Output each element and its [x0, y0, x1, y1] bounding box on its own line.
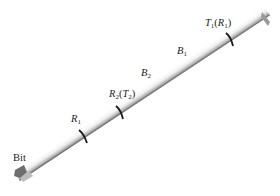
label-t1-r1: T1(R1): [205, 18, 231, 30]
paren-close: ): [132, 88, 136, 99]
label-b2-sub: 2: [147, 72, 151, 80]
drill-pipe: [15, 7, 270, 180]
label-r1: R1: [71, 114, 81, 126]
label-b1: B1: [177, 46, 187, 58]
label-b1-sub: 1: [183, 50, 187, 58]
label-b2: B2: [141, 68, 151, 80]
label-r1-sub: 1: [77, 118, 81, 126]
label-bit: Bit: [13, 153, 26, 164]
drill-string-diagram: [0, 0, 280, 196]
paren-close: ): [228, 17, 232, 28]
label-r2-t2: R2(T2): [109, 89, 135, 101]
